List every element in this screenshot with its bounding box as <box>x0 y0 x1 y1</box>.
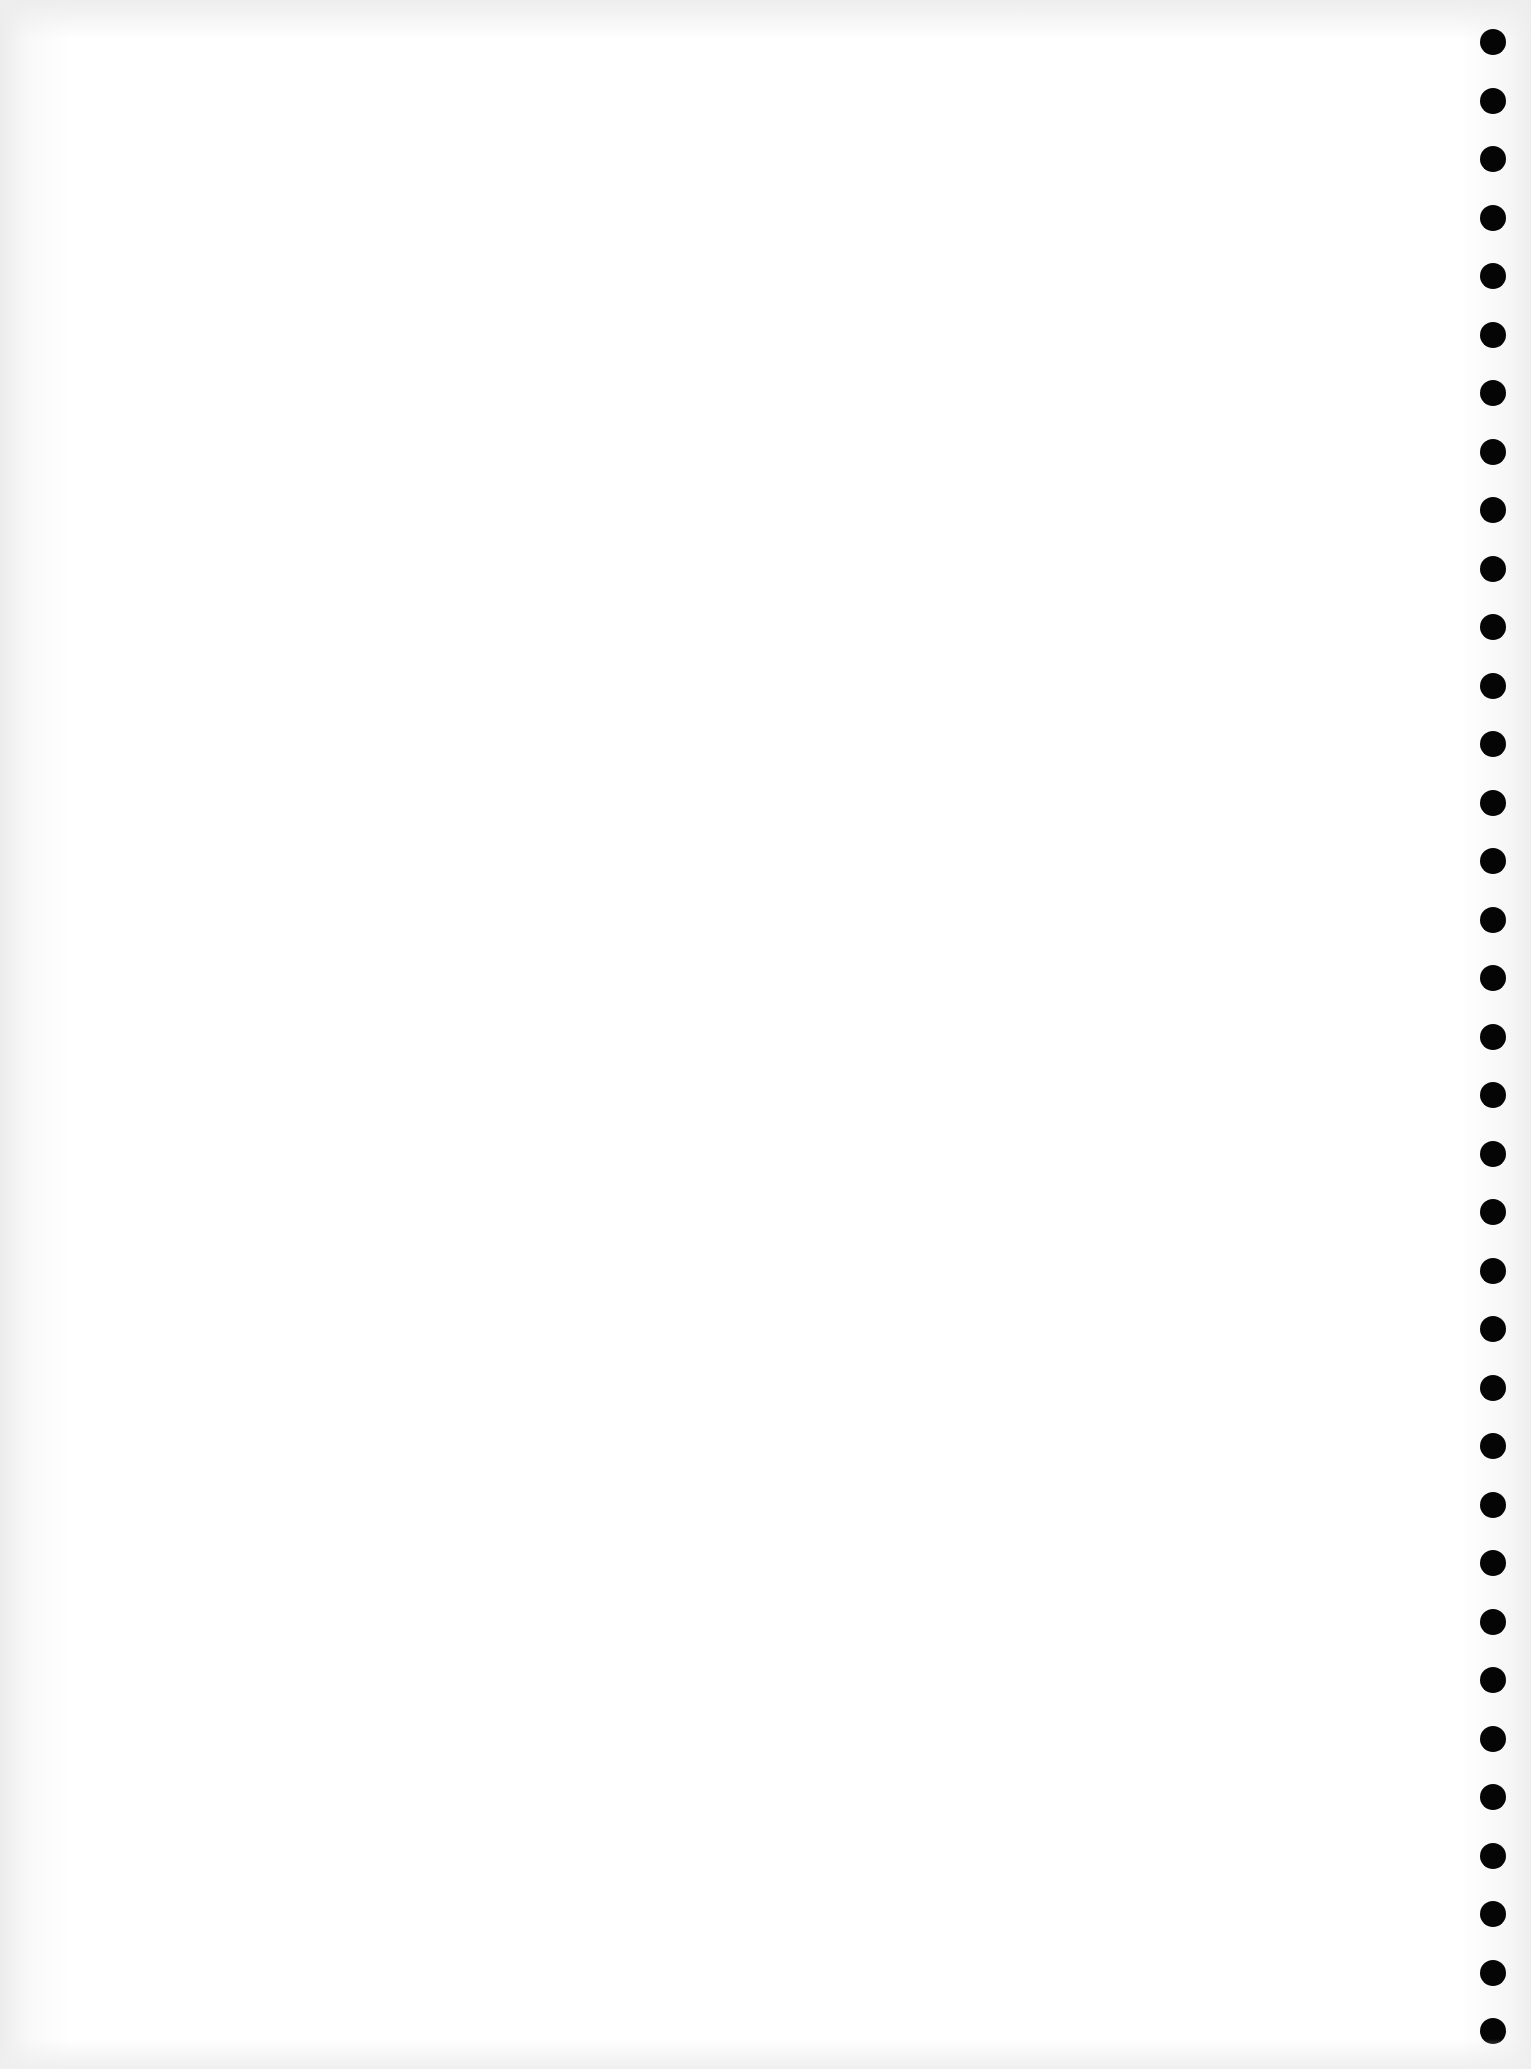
blank-page <box>0 0 1531 2069</box>
punch-hole-icon <box>1480 1024 1506 1050</box>
punch-hole-icon <box>1480 380 1506 406</box>
punch-hole-icon <box>1480 2018 1506 2044</box>
punch-hole-icon <box>1480 1433 1506 1459</box>
punch-hole-icon <box>1480 1960 1506 1986</box>
punch-hole-icon <box>1480 29 1506 55</box>
punch-hole-icon <box>1480 263 1506 289</box>
punch-hole-icon <box>1480 614 1506 640</box>
punch-hole-icon <box>1480 1667 1506 1693</box>
punch-hole-icon <box>1480 1258 1506 1284</box>
punch-hole-icon <box>1480 1199 1506 1225</box>
punch-hole-icon <box>1480 205 1506 231</box>
punch-hole-icon <box>1480 1726 1506 1752</box>
punch-hole-icon <box>1480 146 1506 172</box>
punch-hole-icon <box>1480 731 1506 757</box>
punch-hole-icon <box>1480 965 1506 991</box>
punch-hole-icon <box>1480 497 1506 523</box>
punch-hole-icon <box>1480 322 1506 348</box>
punch-hole-icon <box>1480 88 1506 114</box>
punch-hole-icon <box>1480 1784 1506 1810</box>
punch-hole-icon <box>1480 673 1506 699</box>
punch-hole-icon <box>1480 1843 1506 1869</box>
punch-hole-icon <box>1480 1550 1506 1576</box>
punch-hole-icon <box>1480 1141 1506 1167</box>
punch-hole-icon <box>1480 907 1506 933</box>
punch-hole-icon <box>1480 848 1506 874</box>
punch-hole-icon <box>1480 556 1506 582</box>
punch-hole-icon <box>1480 1375 1506 1401</box>
punch-hole-icon <box>1480 1082 1506 1108</box>
punch-hole-icon <box>1480 1492 1506 1518</box>
punch-hole-icon <box>1480 439 1506 465</box>
punch-hole-icon <box>1480 1609 1506 1635</box>
punch-hole-icon <box>1480 1901 1506 1927</box>
punch-hole-icon <box>1480 1316 1506 1342</box>
punch-hole-icon <box>1480 790 1506 816</box>
